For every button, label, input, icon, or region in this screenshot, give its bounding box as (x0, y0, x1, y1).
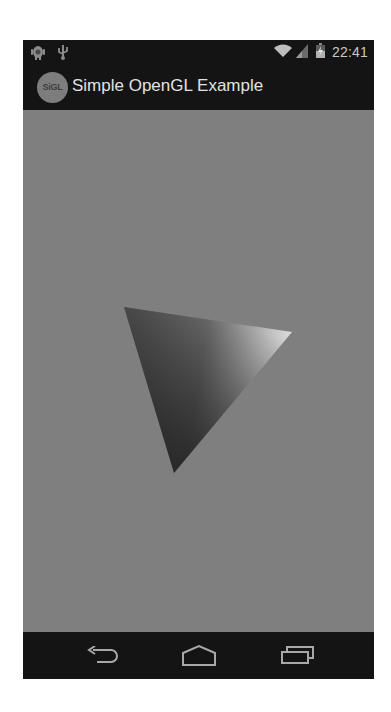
cell-signal-icon (296, 44, 308, 61)
navigation-bar (23, 632, 374, 679)
wifi-icon (274, 44, 292, 61)
system-status: 22:41 (274, 43, 368, 61)
back-icon (85, 646, 119, 664)
usb-icon (57, 43, 69, 64)
back-button[interactable] (77, 640, 127, 670)
home-icon (181, 644, 217, 666)
app-title: Simple OpenGL Example (72, 76, 263, 96)
notification-icons (31, 43, 69, 64)
battery-icon (316, 43, 325, 61)
status-bar: 22:41 (23, 40, 374, 64)
phone-screen: 22:41 SiGL Simple OpenGL Example (23, 40, 374, 679)
clock: 22:41 (332, 44, 368, 60)
triangle-canvas (23, 110, 374, 632)
recents-icon (280, 645, 316, 665)
recents-button[interactable] (273, 640, 323, 670)
android-debug-icon (31, 43, 45, 64)
app-logo-icon[interactable]: SiGL (37, 72, 68, 103)
opengl-surface[interactable] (23, 110, 374, 632)
action-bar: SiGL Simple OpenGL Example (23, 64, 374, 110)
home-button[interactable] (174, 640, 224, 670)
